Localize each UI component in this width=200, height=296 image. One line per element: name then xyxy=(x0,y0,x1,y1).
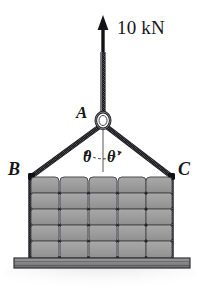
angle-label-right: θ xyxy=(107,149,115,165)
brick xyxy=(89,209,117,225)
brick xyxy=(89,241,117,258)
point-label-b: B xyxy=(8,160,20,178)
brick xyxy=(146,241,172,258)
brick xyxy=(60,225,88,241)
brick xyxy=(31,209,59,225)
brick xyxy=(89,177,117,193)
ring-at-a xyxy=(96,112,110,129)
vertical-hoist-rope xyxy=(101,52,103,118)
brick xyxy=(118,209,146,225)
brick xyxy=(89,225,117,241)
brick xyxy=(118,225,146,241)
brick xyxy=(146,177,172,193)
force-label: 10 kN xyxy=(117,18,165,37)
pallet-board xyxy=(14,258,190,268)
brick xyxy=(118,177,146,193)
brick xyxy=(31,241,59,258)
brick-stack xyxy=(31,177,172,259)
brick xyxy=(118,193,146,209)
brick xyxy=(146,209,172,225)
brick xyxy=(31,193,59,209)
brick xyxy=(89,193,117,209)
brick-row xyxy=(31,209,172,225)
figure-container: 10 kN A B C θ θ xyxy=(0,0,200,296)
sling-brick-stack-diagram xyxy=(0,0,200,296)
brick xyxy=(118,241,146,258)
brick xyxy=(31,225,59,241)
brick xyxy=(146,193,172,209)
brick xyxy=(60,177,88,193)
brick xyxy=(60,241,88,258)
brick xyxy=(60,193,88,209)
angle-label-left: θ xyxy=(83,149,91,165)
point-label-a: A xyxy=(76,104,87,121)
brick xyxy=(146,225,172,241)
brick-row xyxy=(31,225,172,241)
brick-row xyxy=(31,241,172,258)
brick xyxy=(60,209,88,225)
brick xyxy=(31,177,59,193)
brick-row xyxy=(31,177,172,193)
brick-row xyxy=(31,193,172,209)
point-label-c: C xyxy=(178,160,190,178)
